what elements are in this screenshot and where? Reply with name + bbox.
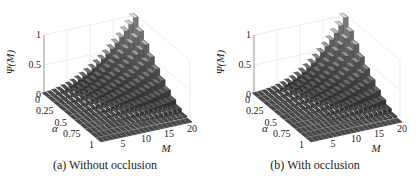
- m-tick-label: 5: [121, 138, 126, 149]
- m-axis-label: M: [160, 142, 171, 154]
- subfigure-b: 00.5100.250.50.7515101520Ψ(M)αM (b) With…: [210, 0, 420, 182]
- m-tick-label: 15: [164, 128, 174, 139]
- alpha-tick-label: 0.25: [36, 105, 54, 116]
- z-tick-label: 0.5: [239, 59, 252, 70]
- z-tick-label: 1: [246, 29, 251, 40]
- m-tick-label: 20: [187, 123, 197, 134]
- m-tick-label: 15: [374, 128, 384, 139]
- alpha-tick-label: 0.25: [246, 105, 264, 116]
- alpha-axis-label: α: [262, 122, 268, 134]
- caption-b: (b) With occlusion: [210, 158, 420, 173]
- alpha-axis-label: α: [52, 122, 58, 134]
- alpha-tick-label: 1: [89, 139, 94, 150]
- z-tick-label: 0.5: [29, 59, 42, 70]
- alpha-tick-label: 0.75: [63, 128, 81, 139]
- z-axis-label: Ψ(M): [4, 50, 17, 75]
- z-tick-label: 1: [36, 29, 41, 40]
- caption-a: (a) Without occlusion: [0, 158, 210, 173]
- m-tick-label: 20: [397, 123, 407, 134]
- bar3d-chart-a: 00.5100.250.50.7515101520Ψ(M)αM: [0, 0, 210, 160]
- alpha-tick-label: 0: [35, 94, 40, 105]
- subfigure-a: 00.5100.250.50.7515101520Ψ(M)αM (a) With…: [0, 0, 210, 182]
- m-tick-label: 5: [331, 138, 336, 149]
- m-tick-label: 10: [141, 133, 151, 144]
- bar3d-chart-b: 00.5100.250.50.7515101520Ψ(M)αM: [210, 0, 420, 160]
- alpha-tick-label: 0.75: [273, 128, 291, 139]
- z-axis-label: Ψ(M): [214, 50, 227, 75]
- m-tick-label: 10: [351, 133, 361, 144]
- alpha-tick-label: 1: [299, 139, 304, 150]
- alpha-tick-label: 0: [245, 94, 250, 105]
- m-axis-label: M: [370, 142, 381, 154]
